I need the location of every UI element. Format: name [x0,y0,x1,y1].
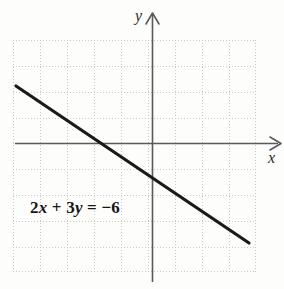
x-axis-label: x [268,150,275,166]
grid-vertical-lines [14,40,256,272]
equation-equals: = [83,198,102,217]
y-axis-label: y [135,8,142,24]
graph-figure: y x 2x + 3y = −6 [0,0,284,289]
line-2x-plus-3y-equals-neg6 [16,86,249,243]
equation-coef-y: 3 [66,198,75,217]
grid-horizontal-lines [13,41,256,272]
equation-plus: + [47,198,66,217]
equation-constant: −6 [101,198,120,217]
equation-annotation: 2x + 3y = −6 [30,199,120,216]
coordinate-plane [0,0,284,289]
equation-var-y: y [75,198,83,217]
y-axis [146,13,159,282]
equation-coef-x: 2 [30,198,39,217]
